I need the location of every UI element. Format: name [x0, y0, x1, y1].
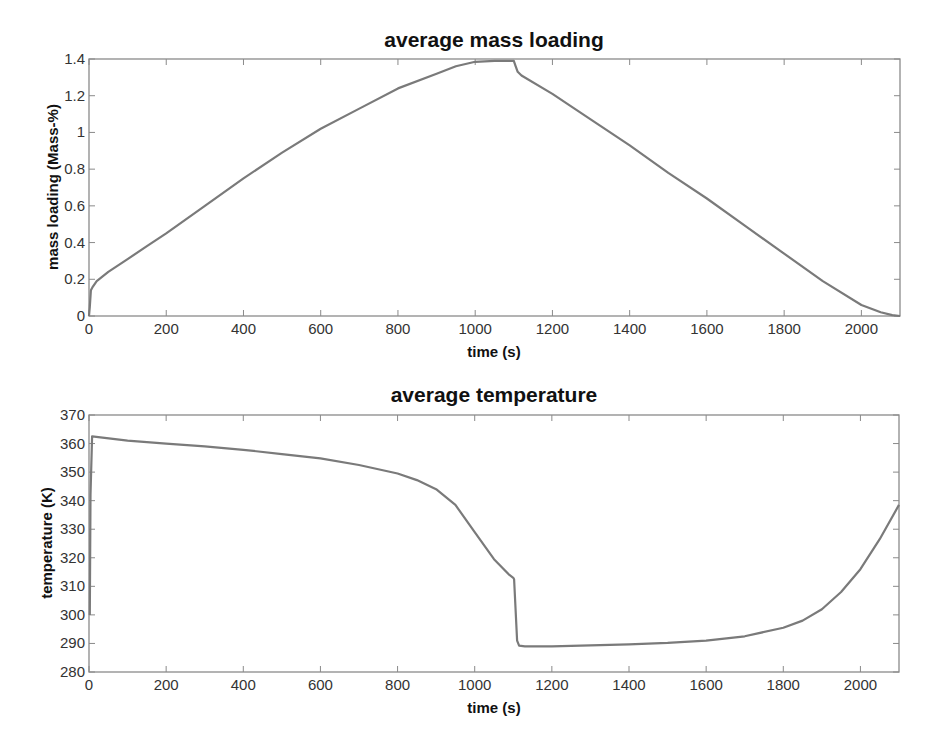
- temperature-line: [90, 436, 899, 646]
- y-tick-label: 1: [77, 123, 85, 140]
- x-tick-label: 2000: [845, 320, 878, 337]
- y-tick-label: 0.6: [64, 197, 85, 214]
- x-tick-label: 1000: [459, 320, 492, 337]
- x-tick-label: 1600: [690, 320, 723, 337]
- y-axis-ticks: 280290300310320330340350360370: [60, 406, 899, 680]
- mass-loading-line: [89, 61, 900, 316]
- x-tick-label: 1800: [767, 320, 800, 337]
- y-tick-label: 330: [60, 520, 85, 537]
- y-tick-label: 310: [60, 577, 85, 594]
- x-axis-label: time (s): [467, 699, 520, 716]
- chart-title: average mass loading: [384, 28, 603, 51]
- y-axis-ticks: 00.20.40.60.811.21.4: [64, 50, 900, 324]
- y-tick-label: 280: [60, 663, 85, 680]
- x-tick-label: 1000: [458, 676, 491, 693]
- temperature-chart: average temperature 28029030031032033034…: [38, 383, 899, 716]
- y-tick-label: 360: [60, 435, 85, 452]
- x-tick-label: 400: [231, 320, 256, 337]
- x-tick-label: 200: [154, 676, 179, 693]
- x-tick-label: 0: [85, 320, 93, 337]
- y-tick-label: 320: [60, 549, 85, 566]
- y-tick-label: 0: [77, 307, 85, 324]
- x-axis-label: time (s): [467, 343, 520, 360]
- x-tick-label: 1400: [612, 676, 645, 693]
- y-axis-label: temperature (K): [38, 487, 55, 599]
- x-tick-label: 1200: [536, 320, 569, 337]
- x-tick-label: 400: [231, 676, 256, 693]
- plot-area-frame: [89, 59, 900, 316]
- y-tick-label: 1.4: [64, 50, 85, 67]
- y-tick-label: 300: [60, 606, 85, 623]
- y-tick-label: 1.2: [64, 87, 85, 104]
- x-tick-label: 600: [308, 676, 333, 693]
- chart-title: average temperature: [391, 383, 598, 406]
- x-axis-ticks: 0200400600800100012001400160018002000: [85, 415, 877, 693]
- x-tick-label: 1800: [767, 676, 800, 693]
- x-tick-label: 800: [385, 676, 410, 693]
- chart-canvas: average mass loading 00.20.40.60.811.21.…: [0, 0, 942, 739]
- x-tick-label: 1600: [689, 676, 722, 693]
- x-tick-label: 2000: [844, 676, 877, 693]
- x-tick-label: 1400: [613, 320, 646, 337]
- y-tick-label: 370: [60, 406, 85, 423]
- y-tick-label: 290: [60, 634, 85, 651]
- y-tick-label: 0.8: [64, 160, 85, 177]
- figure: average mass loading 00.20.40.60.811.21.…: [0, 0, 942, 739]
- x-tick-label: 800: [385, 320, 410, 337]
- y-tick-label: 0.2: [64, 270, 85, 287]
- mass-loading-chart: average mass loading 00.20.40.60.811.21.…: [44, 28, 900, 360]
- x-tick-label: 600: [308, 320, 333, 337]
- plot-area-frame: [89, 415, 899, 672]
- x-tick-label: 0: [85, 676, 93, 693]
- y-tick-label: 340: [60, 492, 85, 509]
- y-axis-label: mass loading (Mass-%): [44, 104, 61, 270]
- x-tick-label: 1200: [535, 676, 568, 693]
- y-tick-label: 350: [60, 463, 85, 480]
- x-axis-ticks: 0200400600800100012001400160018002000: [85, 59, 878, 337]
- x-tick-label: 200: [154, 320, 179, 337]
- y-tick-label: 0.4: [64, 234, 85, 251]
